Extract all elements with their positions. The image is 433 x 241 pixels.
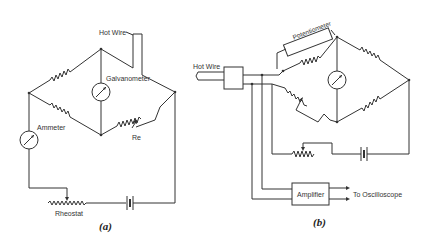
hot-wire-circuit-b	[196, 28, 410, 205]
label-ammeter: Ammeter	[37, 124, 65, 131]
label-to-oscilloscope: To Oscilloscope	[353, 191, 402, 198]
wheatstone-bridge-a	[20, 32, 176, 210]
label-galvanometer: Galvanometer	[106, 75, 150, 82]
caption-b: (b)	[313, 216, 326, 228]
label-rheostat: Rheostat	[55, 210, 83, 217]
label-hot-wire-b: Hot Wire	[193, 63, 220, 70]
caption-a: (a)	[99, 220, 112, 232]
label-hot-wire-a: Hot Wire	[99, 29, 126, 36]
probe-holder	[224, 67, 243, 89]
circuit-diagrams	[0, 0, 433, 241]
label-re: Re	[132, 134, 141, 141]
label-amplifier: Amplifier	[297, 191, 324, 198]
